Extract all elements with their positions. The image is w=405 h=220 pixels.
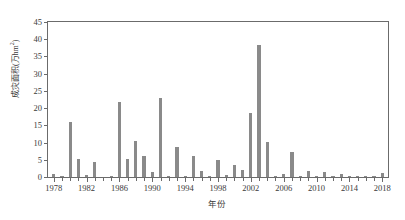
bar [52,174,55,177]
bar [134,141,137,177]
bar [110,176,113,177]
x-axis-tick [152,177,153,182]
chart-figure: 成灾面积(万hm2) 05101520253035404519781982198… [0,0,405,220]
y-axis-tick [44,177,48,178]
x-axis-tick [226,177,227,181]
x-axis-tick [144,177,145,181]
x-axis-tick [325,177,326,181]
y-axis-tick-label: 25 [34,87,43,96]
x-axis-tick [202,177,203,181]
x-axis-tick [193,177,194,181]
x-axis-tick [119,177,120,182]
x-axis-tick [243,177,244,181]
bar [348,176,351,177]
bar [142,156,145,177]
bar [307,171,310,177]
bar [167,176,170,177]
bar [216,160,219,177]
x-axis-tick [292,177,293,181]
x-axis-tick [185,177,186,182]
x-axis-tick [267,177,268,181]
x-axis-tick-label: 2006 [275,184,292,193]
bar [184,176,187,177]
y-axis-tick-label: 20 [34,104,43,113]
plot-area: 0510152025303540451978198219861990199419… [47,21,389,178]
bar [290,152,293,177]
x-axis-tick [128,177,129,181]
x-axis-tick [169,177,170,181]
y-axis-tick-label: 5 [38,156,42,165]
bar [381,173,384,177]
bar [159,98,162,177]
y-axis-tick-label: 10 [34,138,43,147]
bar [356,176,359,177]
x-axis-tick-label: 1990 [144,184,161,193]
x-axis-tick [251,177,252,182]
y-axis-tick [44,74,48,75]
x-axis-tick [374,177,375,181]
x-axis-tick [54,177,55,182]
y-axis-tick-label: 30 [34,69,43,78]
y-axis-tick-label: 40 [34,35,43,44]
y-axis-tick [44,143,48,144]
x-axis-tick [358,177,359,181]
x-axis-tick [308,177,309,181]
x-axis-tick [62,177,63,181]
bar [364,176,367,177]
bar [118,102,121,177]
x-axis-tick [95,177,96,181]
bar [175,147,178,177]
x-axis-tick [103,177,104,181]
bar [372,176,375,177]
y-axis-tick [44,91,48,92]
x-axis-tick [78,177,79,181]
x-axis-tick [210,177,211,181]
bar [126,159,129,177]
y-axis-title-main: 成灾面积(万hm [11,45,20,98]
x-axis-tick-label: 1994 [177,184,194,193]
x-axis-tick [333,177,334,181]
x-axis-tick [341,177,342,181]
bar [151,172,154,178]
x-axis-tick-label: 2018 [374,184,391,193]
y-axis-tick-label: 45 [34,18,43,27]
x-axis-tick-label: 1982 [78,184,95,193]
x-axis-title: 年份 [47,199,387,209]
x-axis-tick [300,177,301,181]
bar [282,174,285,177]
bar [192,156,195,177]
x-axis-tick-label: 2002 [242,184,259,193]
bar [77,159,80,177]
y-axis-tick [44,125,48,126]
y-axis-title-tail: ) [11,40,20,43]
x-axis-tick [218,177,219,182]
x-axis-tick-label: 2010 [308,184,325,193]
bar [93,162,96,177]
x-axis-tick-label: 1998 [210,184,227,193]
x-axis-tick [259,177,260,181]
x-axis-tick [136,177,137,181]
x-axis-tick [234,177,235,181]
y-axis-title-exponent: 2 [9,42,15,45]
bar [60,176,63,177]
x-axis-tick-label: 1978 [45,184,62,193]
bar [241,170,244,177]
bar [233,165,236,177]
x-axis-tick [111,177,112,181]
bar [315,176,318,177]
x-axis-tick [161,177,162,181]
bar [200,171,203,177]
x-axis-tick [87,177,88,182]
x-axis-tick [382,177,383,182]
bar [225,175,228,177]
x-axis-tick [366,177,367,181]
bar [85,175,88,177]
bar [274,176,277,177]
bar [257,45,260,177]
bar [299,176,302,177]
x-axis-tick [284,177,285,182]
y-axis-tick [44,22,48,23]
bar [340,174,343,177]
y-axis-tick-label: 35 [34,52,43,61]
bar [249,113,252,177]
